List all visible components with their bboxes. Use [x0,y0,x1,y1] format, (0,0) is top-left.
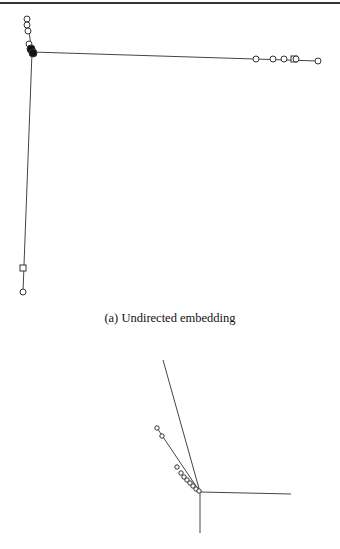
graph-node [281,56,287,62]
graph-node [155,426,159,430]
graph-node [24,16,30,22]
panel-undirected-embedding [20,16,321,295]
graph-node [20,265,26,271]
graph-node [175,465,179,469]
embedding-figure [0,0,340,549]
graph-node [160,434,164,438]
graph-node [315,58,321,64]
graph-node [29,49,37,57]
graph-node [293,56,299,62]
graph-node [24,22,30,28]
graph-node [179,471,183,475]
graph-edge [23,52,32,292]
graph-node [25,28,31,34]
panel-directed-embedding [155,360,291,533]
graph-node [20,289,26,295]
graph-edge [200,492,291,494]
graph-node [270,56,276,62]
graph-node [253,56,259,62]
caption-undirected-embedding: (a) Undirected embedding [0,311,340,326]
graph-node [197,489,201,493]
